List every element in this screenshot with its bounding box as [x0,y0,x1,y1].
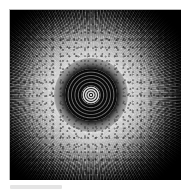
diffraction-pattern-image [10,10,181,180]
caption-text [10,184,62,190]
page-root [0,0,181,192]
dark-concentric-core [65,69,117,121]
figure-panel[interactable] [9,9,181,180]
